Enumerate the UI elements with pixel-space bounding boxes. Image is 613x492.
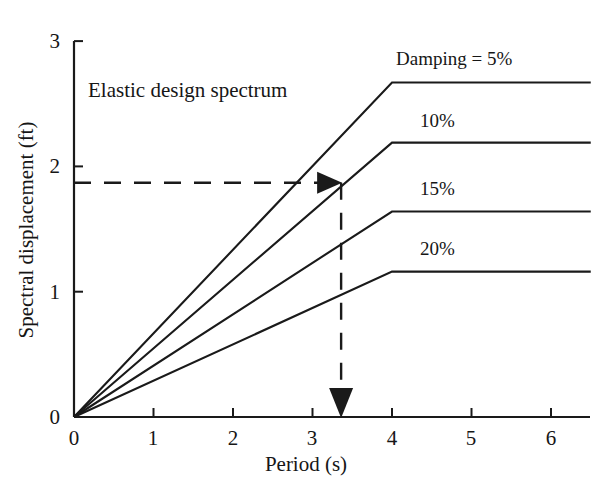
chart-plot-area — [0, 0, 613, 492]
series-label-15: 15% — [420, 178, 455, 200]
right-arrowhead-icon — [317, 172, 342, 194]
x-tick-label-3: 3 — [307, 428, 318, 449]
x-tick-label-0: 0 — [69, 428, 80, 449]
y-tick-label-1: 1 — [50, 282, 61, 303]
elastic-design-spectrum-annotation: Elastic design spectrum — [88, 78, 287, 103]
down-arrowhead-icon — [329, 388, 353, 418]
y-tick-label-3: 3 — [50, 31, 61, 52]
x-tick-label-5: 5 — [466, 428, 477, 449]
y-tick-label-2: 2 — [50, 156, 61, 177]
x-tick-label-6: 6 — [546, 428, 557, 449]
chart-figure: 3 2 1 0 0 1 2 3 4 5 6 Period (s) Spectra… — [0, 0, 613, 492]
series-label-damping-5: Damping = 5% — [396, 48, 512, 70]
series-label-10: 10% — [420, 110, 455, 132]
x-axis-title: Period (s) — [265, 452, 347, 477]
x-tick-label-4: 4 — [387, 428, 398, 449]
y-tick-label-0: 0 — [50, 407, 61, 428]
series-line-2 — [74, 212, 591, 417]
x-tick-label-1: 1 — [148, 428, 159, 449]
y-axis-title: Spectral displacement (ft) — [14, 122, 39, 339]
data-series-lines — [74, 82, 591, 417]
x-tick-label-2: 2 — [228, 428, 239, 449]
series-label-20: 20% — [420, 238, 455, 260]
